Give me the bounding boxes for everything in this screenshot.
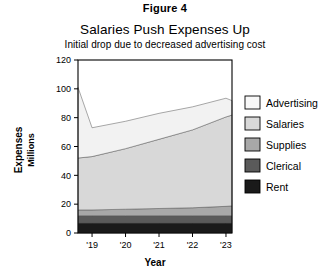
figure-container: Figure 4 Salaries Push Expenses Up Initi… [0, 0, 330, 276]
y-tick-label: 120 [56, 55, 71, 65]
y-tick-label: 0 [66, 228, 71, 238]
y-tick-label: 60 [61, 142, 71, 152]
legend-label-rent: Rent [266, 181, 288, 193]
x-tick-label: '23 [220, 240, 232, 250]
y-axis: 020406080100120 [56, 55, 78, 238]
legend-label-clerical: Clerical [266, 160, 301, 172]
stacked-area-chart: 020406080100120 '19'20'21'22'23 Advertis… [0, 0, 330, 276]
legend-swatch-clerical [245, 159, 260, 172]
legend-swatch-advertising [245, 96, 260, 109]
area-series-clerical [78, 216, 232, 223]
y-tick-label: 100 [56, 84, 71, 94]
x-tick-label: '20 [120, 240, 132, 250]
x-axis-title: Year [144, 257, 165, 268]
y-tick-label: 20 [61, 199, 71, 209]
legend-swatch-supplies [245, 138, 260, 151]
legend-label-salaries: Salaries [266, 118, 304, 130]
x-tick-label: '19 [86, 240, 98, 250]
legend-label-supplies: Supplies [266, 139, 306, 151]
area-series-group [78, 87, 232, 233]
legend-label-advertising: Advertising [266, 97, 318, 109]
legend-swatch-salaries [245, 117, 260, 130]
x-axis: '19'20'21'22'23 [86, 233, 232, 250]
legend-swatch-rent [245, 180, 260, 193]
area-series-rent [78, 223, 232, 233]
x-tick-label: '21 [153, 240, 165, 250]
y-axis-subtitle: Millions [26, 133, 36, 167]
x-tick-label: '22 [187, 240, 199, 250]
y-axis-title: Expenses [13, 126, 24, 173]
y-tick-label: 40 [61, 171, 71, 181]
chart-legend: AdvertisingSalariesSuppliesClericalRent [245, 96, 318, 193]
y-tick-label: 80 [61, 113, 71, 123]
